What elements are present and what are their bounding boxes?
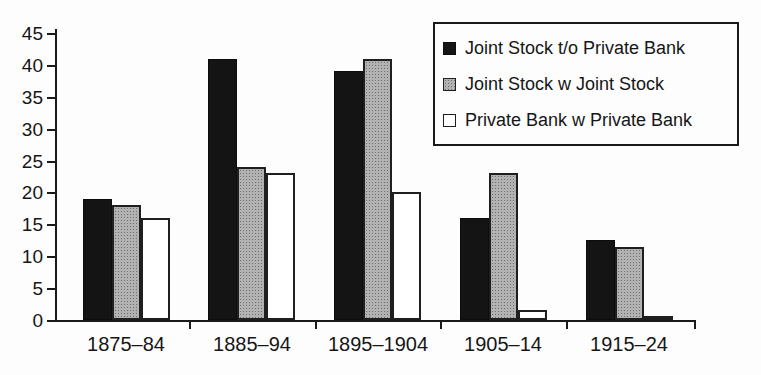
legend-swatch-gray-square-icon	[443, 78, 456, 91]
y-axis-tick	[47, 97, 55, 99]
bar-halftone-gray-1875–84	[112, 205, 141, 320]
bar-white-outline-1905–14	[518, 310, 547, 320]
x-axis-tick	[189, 322, 191, 329]
category-label: 1905–14	[433, 333, 573, 355]
y-axis-tick	[47, 288, 55, 290]
bar-white-outline-1915–24	[644, 316, 673, 320]
bar-halftone-gray-1895–1904	[363, 59, 392, 320]
bar-white-outline-1885–94	[266, 173, 295, 320]
bar-chart-figure: 0510152025303540451875–841885–941895–190…	[0, 0, 761, 375]
y-tick-label: 45	[5, 24, 43, 44]
y-axis-tick	[47, 320, 55, 322]
x-axis-tick	[566, 322, 568, 329]
y-axis-tick	[47, 129, 55, 131]
legend-item: Joint Stock w Joint Stock	[443, 74, 729, 95]
bar-solid-black-1875–84	[83, 199, 112, 320]
y-axis-tick	[47, 192, 55, 194]
bar-halftone-gray-1885–94	[237, 167, 266, 320]
x-axis-line	[55, 320, 696, 322]
bar-halftone-gray-1915–24	[615, 247, 644, 320]
bar-solid-black-1915–24	[586, 240, 615, 320]
y-axis-tick	[47, 65, 55, 67]
bar-white-outline-1895–1904	[392, 192, 421, 320]
bar-solid-black-1905–14	[460, 218, 489, 320]
chart-legend: Joint Stock t/o Private Bank Joint Stock…	[433, 22, 739, 146]
y-tick-label: 15	[5, 215, 43, 235]
y-tick-label: 10	[5, 247, 43, 267]
legend-swatch-white-square-icon	[443, 114, 456, 127]
bar-halftone-gray-1905–14	[489, 173, 518, 320]
bar-solid-black-1885–94	[208, 59, 237, 320]
x-axis-tick	[440, 322, 442, 329]
y-tick-label: 30	[5, 120, 43, 140]
y-tick-label: 5	[5, 279, 43, 299]
legend-label: Private Bank w Private Bank	[465, 110, 692, 131]
bar-solid-black-1895–1904	[334, 71, 363, 320]
x-axis-tick	[694, 322, 696, 329]
legend-item: Private Bank w Private Bank	[443, 110, 729, 131]
category-label: 1895–1904	[308, 333, 448, 355]
legend-item: Joint Stock t/o Private Bank	[443, 38, 729, 59]
y-tick-label: 20	[5, 183, 43, 203]
y-axis-tick	[47, 33, 55, 35]
category-label: 1915–24	[559, 333, 699, 355]
bar-white-outline-1875–84	[141, 218, 170, 320]
y-axis-tick	[47, 161, 55, 163]
legend-label: Joint Stock w Joint Stock	[465, 74, 664, 95]
category-label: 1875–84	[56, 333, 196, 355]
x-axis-tick	[315, 322, 317, 329]
legend-label: Joint Stock t/o Private Bank	[465, 38, 685, 59]
y-tick-label: 40	[5, 56, 43, 76]
y-axis-tick	[47, 256, 55, 258]
legend-swatch-black-square-icon	[443, 42, 456, 55]
y-tick-label: 0	[5, 311, 43, 331]
y-axis-line	[55, 29, 57, 322]
y-axis-tick	[47, 224, 55, 226]
category-label: 1885–94	[182, 333, 322, 355]
y-tick-label: 25	[5, 152, 43, 172]
y-tick-label: 35	[5, 88, 43, 108]
